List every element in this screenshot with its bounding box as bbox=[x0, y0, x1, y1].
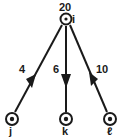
edge-weight-i-j: 4 bbox=[19, 64, 25, 75]
node-l-label: ℓ bbox=[107, 126, 112, 137]
node-i[interactable] bbox=[61, 14, 72, 25]
node-j-dot bbox=[10, 117, 14, 121]
node-i-value-label: 20 bbox=[59, 2, 71, 13]
graph-diagram: 20 i j k ℓ 4 6 10 bbox=[0, 0, 125, 137]
node-i-label: i bbox=[72, 14, 75, 25]
arrowhead-i-j bbox=[26, 74, 36, 88]
node-i-dot bbox=[64, 17, 67, 20]
node-j-label: j bbox=[9, 126, 12, 137]
node-l[interactable] bbox=[104, 113, 116, 125]
node-j[interactable] bbox=[6, 113, 18, 125]
edge-i-to-k bbox=[61, 26, 71, 112]
edge-weight-i-k: 6 bbox=[53, 64, 59, 75]
node-k-label: k bbox=[62, 126, 68, 137]
node-l-dot bbox=[108, 117, 112, 121]
node-k[interactable] bbox=[60, 113, 72, 125]
node-k-dot bbox=[64, 117, 68, 121]
edge-weight-i-l: 10 bbox=[96, 64, 108, 75]
arrowhead-i-k bbox=[61, 74, 71, 88]
